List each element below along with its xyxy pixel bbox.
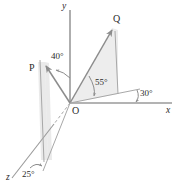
origin-label: O [72,105,79,116]
x-axis-label: x [165,105,171,115]
angle-30-arc [136,90,138,102]
z-axis-label: z [5,172,10,182]
angle-40-arc [56,70,70,78]
plane-shade-p [38,62,52,160]
angle-40-label: 40° [51,51,64,61]
vector-p-label: P [29,62,35,73]
vector-q-label: Q [113,13,121,24]
angle-25-arc [30,164,42,168]
angle-55-label: 55° [95,77,108,87]
y-axis-label: y [61,1,67,11]
vector-diagram-figure: z y x O P Q [0,0,180,187]
angle-25-label: 25° [22,169,35,179]
vector-diagram-svg: z y x O P Q [0,0,180,187]
angle-30-label: 30° [140,88,153,98]
